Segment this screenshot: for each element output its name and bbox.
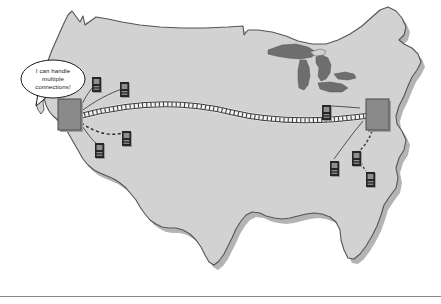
router-west[interactable] — [58, 99, 83, 132]
computer-se-3[interactable] — [366, 172, 376, 188]
network-map-illustration: I can handle multiple connections! — [0, 0, 441, 304]
computer-sw-2[interactable] — [122, 131, 132, 147]
figure-root: I can handle multiple connections! — [0, 0, 441, 304]
speech-bubble-line-1: I can handle — [36, 67, 71, 74]
speech-bubble-line-3: connections! — [35, 83, 71, 90]
computer-mw-1[interactable] — [322, 105, 332, 121]
computer-se-2[interactable] — [352, 151, 362, 167]
speech-bubble-line-2: multiple — [42, 75, 64, 82]
computer-nw-1[interactable] — [92, 77, 102, 93]
router-east[interactable] — [366, 99, 391, 132]
computer-se-1[interactable] — [330, 161, 340, 177]
computer-sw-1[interactable] — [95, 143, 105, 159]
computer-nw-2[interactable] — [120, 82, 130, 98]
map-landmass — [36, 7, 421, 265]
